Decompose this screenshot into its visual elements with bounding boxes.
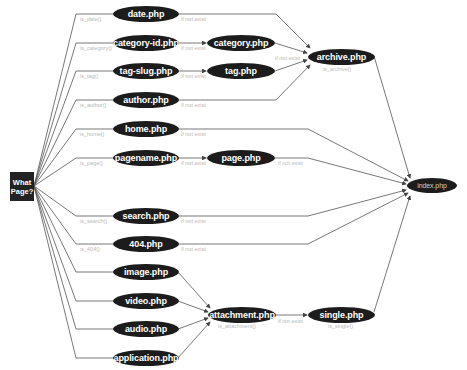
condition-is-home: is_home() bbox=[80, 131, 104, 137]
if-not-exist-label: if not exist bbox=[181, 45, 206, 51]
condition-is-search: is_search() bbox=[80, 218, 107, 224]
if-not-exist-label: if not exist bbox=[181, 160, 206, 166]
start-label-line2: Page? bbox=[11, 187, 34, 196]
if-not-exist-label: if not exist bbox=[181, 16, 206, 22]
what-page-start-node: WhatPage? bbox=[10, 172, 34, 201]
node-archive-php[interactable]: archive.php bbox=[308, 49, 375, 65]
node-category-php[interactable]: category.php bbox=[207, 35, 275, 51]
node-image-php[interactable]: image.php bbox=[113, 264, 179, 280]
node-author-php[interactable]: author.php bbox=[113, 92, 179, 108]
node-single-php[interactable]: single.php bbox=[308, 307, 375, 323]
node-search-php[interactable]: search.php bbox=[113, 208, 179, 224]
if-not-exist-label: if not exist bbox=[181, 73, 206, 79]
node-tag-slug-php[interactable]: tag-slug.php bbox=[113, 63, 179, 79]
start-label-line1: What bbox=[13, 178, 31, 187]
node-tag-php[interactable]: tag.php bbox=[207, 63, 275, 79]
if-not-exist-label: if not exist bbox=[181, 102, 206, 108]
node-application-php[interactable]: application.php bbox=[113, 350, 179, 366]
if-not-exist-label: if not exist bbox=[278, 160, 303, 166]
node-audio-php[interactable]: audio.php bbox=[113, 321, 179, 337]
node-index-php[interactable]: index.php bbox=[407, 178, 457, 193]
if-not-exist-label: if not exist bbox=[181, 218, 206, 224]
condition-is-single: is_single() bbox=[328, 323, 353, 329]
node-home-php[interactable]: home.php bbox=[113, 121, 179, 137]
node-category-id-php[interactable]: category-id.php bbox=[113, 35, 179, 51]
condition-is-date: is_date() bbox=[80, 16, 101, 22]
condition-is-page: is_page() bbox=[80, 160, 103, 166]
condition-is-category: is_category() bbox=[80, 45, 112, 51]
node-date-php[interactable]: date.php bbox=[113, 6, 179, 22]
if-not-exist-label: if not exist bbox=[275, 55, 300, 61]
node-video-php[interactable]: video.php bbox=[113, 293, 179, 309]
node-pagename-php[interactable]: pagename.php bbox=[113, 150, 179, 166]
condition-is-tag: is_tag() bbox=[80, 73, 98, 79]
node-attachment-php[interactable]: attachment.php bbox=[208, 307, 276, 323]
if-not-exist-label: if not exist bbox=[181, 246, 206, 252]
node-404-php[interactable]: 404.php bbox=[113, 236, 179, 252]
if-not-exist-label: if not exist bbox=[181, 131, 206, 137]
condition-is-404: is_404() bbox=[80, 246, 100, 252]
condition-is-author: is_author() bbox=[80, 102, 106, 108]
condition-is-attachment: is_attachment() bbox=[218, 323, 256, 329]
node-page-php[interactable]: page.php bbox=[207, 150, 275, 166]
if-not-exist-label: if not exist bbox=[278, 318, 303, 324]
condition-is-archive: is_archive() bbox=[323, 66, 351, 72]
